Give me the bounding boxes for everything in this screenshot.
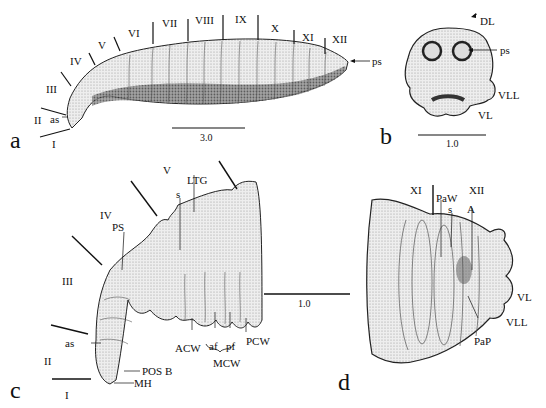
segment-label-VI: VI [128, 28, 140, 39]
structure-label-as: as [50, 114, 59, 125]
structure-label-VL: VL [478, 110, 493, 121]
segment-label-V: V [98, 40, 106, 51]
segment-label-c-III: III [62, 276, 73, 287]
structure-label-LTG: LTG [187, 175, 207, 186]
structure-label-s-d: s [448, 204, 452, 215]
structure-label-PaW: PaW [436, 193, 457, 204]
larva-body-a [40, 15, 370, 137]
scale-bar-label-a: 3.0 [200, 133, 213, 143]
segment-label-VIII: VIII [195, 15, 214, 26]
structure-label-MH: MH [134, 378, 152, 389]
segment-label-III: III [46, 84, 57, 95]
segment-label-d-XII: XII [469, 185, 484, 196]
structure-label-MCW: MCW [213, 358, 241, 369]
panel-letter-d: d [338, 370, 350, 394]
structure-label-DL: DL [480, 16, 495, 27]
structure-label-as-c: as [65, 338, 74, 349]
segment-label-IX: IX [235, 14, 247, 25]
panel-letter-a: a [10, 128, 21, 152]
segment-label-II: II [34, 115, 41, 126]
structure-label-ACW: ACW [175, 343, 201, 354]
segment-label-VII: VII [162, 18, 177, 29]
panel-letter-b: b [380, 124, 392, 148]
segment-label-XII: XII [332, 34, 347, 45]
structure-label-POS-B: POS B [142, 366, 172, 377]
structure-label-s-c: s [176, 189, 180, 200]
segment-label-c-IV: IV [100, 210, 112, 221]
segment-label-c-I: I [65, 390, 69, 401]
structure-label-ps: ps [372, 56, 382, 67]
structure-label-ps-b: ps [500, 45, 510, 56]
scale-bar-label-c: 1.0 [298, 299, 311, 309]
structure-label-PCW: PCW [246, 336, 270, 347]
structure-label-VLL-d: VLL [506, 317, 527, 328]
segment-label-I: I [52, 139, 56, 150]
structure-label-PaP: PaP [474, 336, 491, 347]
structure-label-af: af [209, 341, 218, 352]
structure-label-VL-d: VL [517, 292, 532, 303]
structure-label-PS: PS [112, 222, 124, 233]
panel-letter-c: c [10, 378, 21, 402]
structure-label-pf: pf [226, 341, 235, 352]
segment-label-c-V: V [163, 165, 171, 176]
segment-label-IV: IV [70, 56, 82, 67]
segment-label-c-II: II [44, 356, 51, 367]
structure-label-A: A [467, 204, 475, 215]
segment-label-X: X [271, 23, 279, 34]
segment-label-d-XI: XI [410, 185, 422, 196]
scale-bar-label-b: 1.0 [446, 139, 459, 149]
segment-label-XI: XI [302, 32, 314, 43]
structure-label-VLL: VLL [498, 90, 519, 101]
